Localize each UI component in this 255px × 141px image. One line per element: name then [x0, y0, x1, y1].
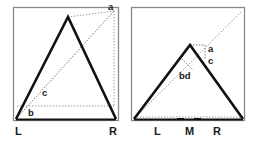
right-diagram-panel: a c bd L M R — [132, 8, 245, 138]
diagram-figure: a c b L R a c bd L — [0, 0, 255, 141]
label-c: c — [42, 87, 47, 98]
dotted-diagonal-l-to-corner — [134, 11, 242, 119]
axis-label-R: R — [109, 125, 117, 137]
axis-label-M: M — [185, 125, 194, 137]
bold-triangle-outline — [16, 17, 116, 119]
label-b: b — [28, 107, 34, 118]
dotted-diagonal-l-to-a — [16, 11, 114, 119]
axis-label-R: R — [213, 125, 221, 137]
panel-frame — [132, 8, 245, 121]
axis-label-L: L — [15, 125, 22, 137]
bold-triangle-outline — [134, 45, 243, 119]
dotted-bd-marker — [180, 57, 193, 70]
label-a: a — [208, 43, 214, 54]
label-a: a — [108, 1, 114, 12]
panel-frame — [14, 8, 119, 121]
diagram-canvas: a c b L R a c bd L — [0, 0, 255, 141]
label-bd: bd — [179, 70, 191, 81]
left-diagram-panel: a c b L R — [14, 1, 119, 137]
label-c: c — [208, 55, 213, 66]
axis-label-L: L — [154, 125, 161, 137]
